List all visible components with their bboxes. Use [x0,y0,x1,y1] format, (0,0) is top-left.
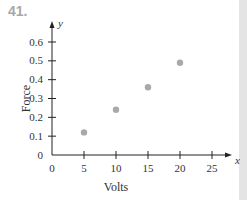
data-point [145,84,151,90]
data-point [113,107,119,113]
axes: yx00.10.20.30.40.50.60510152025VoltsForc… [19,17,240,194]
y-tick-label: 0.4 [29,73,43,85]
x-axis-arrow-icon [225,153,232,158]
y-tick-label: 0 [38,149,44,161]
x-axis-title: Volts [104,180,129,194]
y-tick-label: 0.1 [29,130,43,142]
x-tick-label: 20 [175,162,187,174]
y-axis-title: Force [19,85,33,112]
data-points [81,60,183,136]
y-axis-arrow-icon [50,21,55,28]
y-axis-variable: y [57,17,63,29]
data-point [81,129,87,135]
y-tick-label: 0.5 [29,54,43,66]
x-tick-label: 15 [143,162,155,174]
scatter-chart: yx00.10.20.30.40.50.60510152025VoltsForc… [0,0,247,200]
x-tick-label: 0 [49,162,55,174]
x-tick-label: 10 [111,162,123,174]
x-tick-label: 5 [81,162,87,174]
data-point [177,60,183,66]
y-tick-label: 0.6 [29,36,43,48]
x-axis-variable: x [234,154,240,166]
x-tick-label: 25 [207,162,219,174]
